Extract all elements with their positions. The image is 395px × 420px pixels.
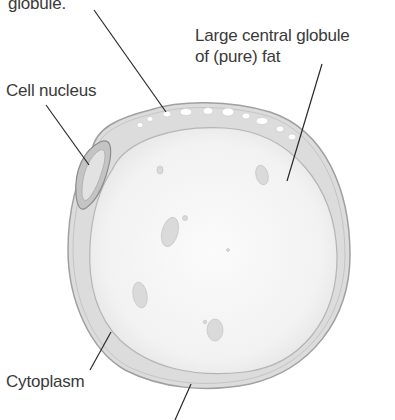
leader-membrane — [175, 384, 191, 420]
leader-nucleus — [46, 105, 89, 165]
label-central-fat-line2: of (pure) fat — [195, 47, 280, 67]
label-cytoplasm: Cytoplasm — [6, 372, 85, 392]
label-cell-nucleus: Cell nucleus — [6, 81, 96, 101]
label-globule: globule. — [8, 0, 66, 14]
leader-globule — [94, 10, 166, 112]
label-central-fat-line1: Large central globule — [195, 26, 350, 46]
